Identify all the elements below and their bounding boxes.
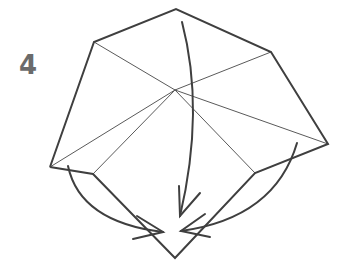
crease-left: [50, 90, 175, 167]
crease-inner-left: [93, 90, 175, 174]
center-fold-arrow-icon: [180, 22, 193, 216]
origami-diagram: [0, 0, 344, 266]
paper-outline: [50, 9, 328, 258]
center-arrowhead-icon: [179, 186, 200, 216]
crease-top-left: [94, 42, 175, 90]
fold-arrows: [68, 22, 297, 239]
crease-inner-right: [175, 90, 255, 173]
crease-right: [175, 90, 328, 144]
